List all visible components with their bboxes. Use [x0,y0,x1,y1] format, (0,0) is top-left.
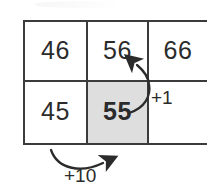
grid-cell-55-highlighted[interactable]: 55 [86,80,147,143]
number-grid: 46 56 66 45 55 [23,20,207,145]
plus-one-label: +1 [151,88,173,107]
grid-cell-value: 46 [41,38,70,63]
grid-cell-66[interactable]: 66 [147,22,207,80]
grid-cell-value: 56 [103,38,132,63]
grid-cell-value: 55 [103,99,132,124]
grid-cell-value: 45 [41,99,70,124]
plus-ten-label: +10 [64,166,96,185]
grid-cell-value: 66 [164,38,193,63]
grid-cell-45[interactable]: 45 [25,80,86,143]
grid-cell-46[interactable]: 46 [25,22,86,80]
grid-cell-56[interactable]: 56 [86,22,147,80]
scan-artifact [36,1,156,8]
number-grid-diagram: 46 56 66 45 55 [0,0,214,193]
